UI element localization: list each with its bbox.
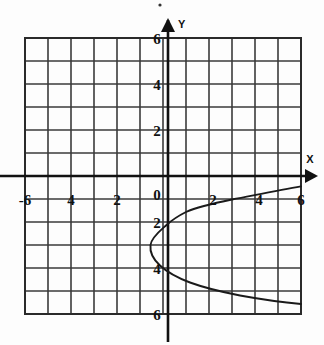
x-tick-label-pos6: 6: [297, 192, 305, 208]
y-tick-label-pos6: 6: [153, 31, 161, 47]
y-axis-label: Y: [178, 18, 186, 30]
scan-speck-artifact: [158, 3, 161, 6]
x-tick-label-zero: 0: [153, 187, 161, 203]
x-tick-label-neg6: -6: [19, 192, 32, 208]
x-tick-label-pos2: 2: [209, 192, 217, 208]
coordinate-plane-svg: -6 4 2 0 2 4 6 6 4 2 2 4 6 X Y: [0, 0, 324, 345]
x-tick-label-neg4: 4: [67, 192, 75, 208]
y-tick-label-neg6: 6: [153, 307, 161, 323]
x-axis-label: X: [306, 153, 314, 165]
graph-figure: -6 4 2 0 2 4 6 6 4 2 2 4 6 X Y: [0, 0, 324, 345]
y-tick-label-pos2: 2: [153, 123, 161, 139]
y-tick-label-neg4: 4: [153, 261, 161, 277]
y-tick-label-neg2: 2: [153, 215, 161, 231]
x-tick-label-pos4: 4: [255, 192, 263, 208]
x-tick-label-neg2: 2: [113, 192, 121, 208]
y-tick-label-pos4: 4: [153, 77, 161, 93]
